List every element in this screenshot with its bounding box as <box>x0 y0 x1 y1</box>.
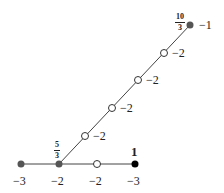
graph-canvas <box>0 0 224 193</box>
nodes <box>18 22 194 168</box>
annotation-top-fraction: 10 3 <box>175 13 185 32</box>
node-n3 <box>132 161 139 168</box>
weight-n0: −3 <box>13 175 26 187</box>
fraction-numerator: 10 <box>175 13 185 23</box>
node-d1 <box>82 133 89 140</box>
weight-n3: −3 <box>127 175 140 187</box>
fraction-denominator: 3 <box>175 23 185 32</box>
edges <box>21 25 190 164</box>
fraction-denominator: 3 <box>54 151 60 160</box>
weight-n2: −2 <box>89 175 102 187</box>
weight-d4: −2 <box>172 47 185 59</box>
weight-d3: −2 <box>146 74 159 86</box>
node-top <box>187 22 194 29</box>
weight-d1: −2 <box>93 130 106 142</box>
node-n2 <box>94 161 101 168</box>
node-n1 <box>56 161 63 168</box>
weight-top: −1 <box>199 19 212 31</box>
annotation-n3: 1 <box>131 145 138 158</box>
fraction-numerator: 5 <box>54 141 60 151</box>
node-d2 <box>109 105 116 112</box>
node-d4 <box>161 50 168 57</box>
edge-diagonal <box>59 25 190 164</box>
node-d3 <box>135 77 142 84</box>
node-n0 <box>18 161 25 168</box>
annotation-n1-fraction: 5 3 <box>54 141 60 160</box>
weight-n1: −2 <box>51 175 64 187</box>
weight-d2: −2 <box>120 102 133 114</box>
